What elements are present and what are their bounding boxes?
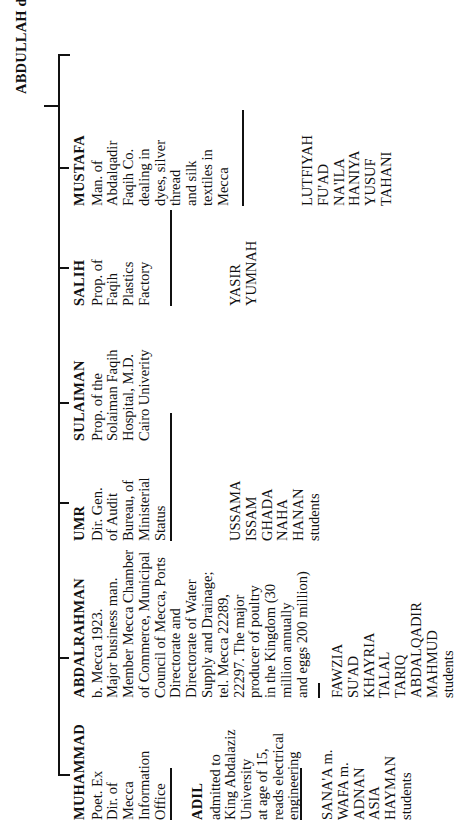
person-name: SALIH: [72, 259, 88, 306]
connector-umr-children: [170, 413, 172, 541]
person-name: ADIL: [190, 729, 206, 820]
person-name: MUHAMMAD: [72, 724, 88, 820]
bracket-tick-salih: [58, 267, 69, 269]
root-person-name: ABDULLAH d.: [14, 0, 30, 94]
person-name: MUSTAFA: [72, 135, 88, 206]
children-of-salih: YASIR YUMNAH: [228, 241, 260, 306]
person-abdalrahman: ABDALRAHMAN b. Mecca 1923. Major busines…: [72, 550, 311, 698]
bracket-cap-start: [58, 774, 70, 776]
connector-abdalrahman-children: [318, 683, 320, 698]
bracket-parent-stem: [44, 105, 59, 107]
person-description: admitted to King Abdalaziz University at…: [208, 729, 303, 820]
children-of-abdalrahman: FAWZIA SU'AD KHAYRIA TALAL TARIQ ABDALQA…: [330, 602, 456, 698]
person-name: ABDALRAHMAN: [72, 550, 88, 698]
person-sulaiman: SULAIMAN Prop. of the Solaiman Faqih Hos…: [72, 350, 153, 441]
person-muhammad: MUHAMMAD Poet. Ex Dir. of Mecca Informat…: [72, 724, 168, 820]
person-adil: ADIL admitted to King Abdalaziz Universi…: [190, 729, 302, 820]
person-salih: SALIH Prop. of Faqih Plastics Factory: [72, 259, 153, 306]
children-of-mustafa: LUTFIYAH FU'AD NA'ILA HANIYA YUSUF TAHAN…: [300, 135, 395, 206]
connector-adil-children: [300, 768, 302, 820]
root-person-abdullah: ABDULLAH d.: [14, 0, 30, 94]
bracket-tick-abdalrahman: [58, 657, 69, 659]
bracket-cap-end: [58, 54, 70, 56]
person-name: UMR: [72, 477, 88, 541]
person-umr: UMR Dir. Gen. of Audit Bureau, of Minist…: [72, 477, 168, 541]
person-description: Prop. of Faqih Plastics Factory: [90, 259, 153, 306]
children-of-adil: SANA'A m. WAFA m. ADNAN ASIA HAYMAN stud…: [320, 750, 415, 820]
bracket-tick-mustafa: [58, 167, 69, 169]
children-of-umr: USSAMA ISSAM GHADA NAHA HANAN students: [228, 481, 323, 541]
person-description: Poet. Ex Dir. of Mecca Information Offic…: [90, 724, 169, 820]
person-description: Prop. of the Solaiman Faqih Hospital, M.…: [90, 350, 153, 441]
connector-salih-children: [170, 210, 172, 306]
person-mustafa: MUSTAFA Man. of Abdalqadir Faqih Co. dea…: [72, 135, 232, 206]
person-description: b. Mecca 1923. Major business man. Membe…: [90, 550, 311, 698]
person-description: Dir. Gen. of Audit Bureau, of Ministeria…: [90, 477, 169, 541]
person-name: SULAIMAN: [72, 350, 88, 441]
bracket-spine: [58, 54, 60, 776]
connector-muhammad-adil: [170, 768, 172, 820]
person-description: Man. of Abdalqadir Faqih Co. dealing in …: [90, 135, 232, 206]
bracket-tick-umr: [58, 502, 69, 504]
bracket-tick-sulaiman: [58, 402, 69, 404]
connector-mustafa-children: [242, 110, 244, 206]
